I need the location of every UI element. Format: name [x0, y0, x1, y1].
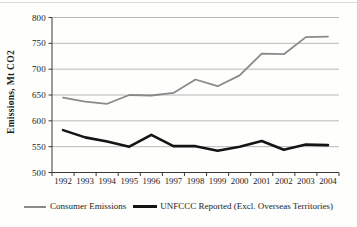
- x-tick-label: 2003: [297, 176, 315, 186]
- x-tick-label: 2002: [275, 176, 293, 186]
- x-tick-label: 1994: [98, 176, 116, 186]
- x-tick-label: 1993: [76, 176, 94, 186]
- x-tick-label: 1995: [120, 176, 138, 186]
- x-axis-tick-labels: 1992199319941995199619971998199920002001…: [0, 0, 357, 227]
- legend: Consumer Emissions UNFCCC Reported (Excl…: [0, 201, 357, 212]
- x-tick-label: 2000: [231, 176, 249, 186]
- x-tick-label: 1998: [187, 176, 205, 186]
- legend-line-unfccc-reported: [133, 205, 157, 208]
- x-tick-label: 2001: [253, 176, 271, 186]
- x-tick-label: 1992: [54, 176, 72, 186]
- x-tick-label: 1999: [209, 176, 227, 186]
- legend-label-consumer-emissions: Consumer Emissions: [50, 201, 126, 212]
- x-tick-label: 2004: [319, 176, 337, 186]
- x-tick-label: 1997: [165, 176, 183, 186]
- legend-label-unfccc-reported: UNFCCC Reported (Excl. Overseas Territor…: [160, 201, 333, 212]
- x-tick-label: 1996: [143, 176, 161, 186]
- legend-line-consumer-emissions: [24, 206, 46, 208]
- emissions-line-chart: Emissions, Mt CO2 500550600650700750800 …: [0, 0, 357, 227]
